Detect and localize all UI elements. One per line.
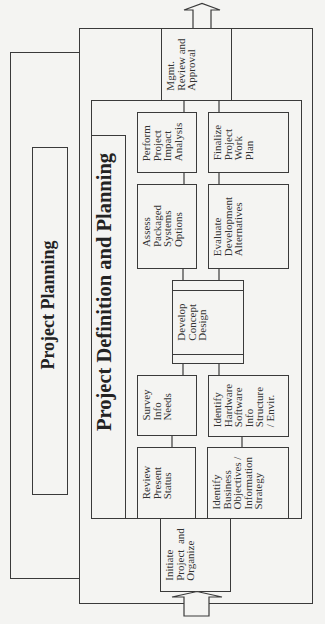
output-up-arrow-icon <box>184 4 220 29</box>
connector-layer <box>0 0 325 624</box>
process-diagram: Project Planning Mgmt. Review and Approv… <box>0 0 325 624</box>
input-up-arrow-icon <box>172 592 222 617</box>
